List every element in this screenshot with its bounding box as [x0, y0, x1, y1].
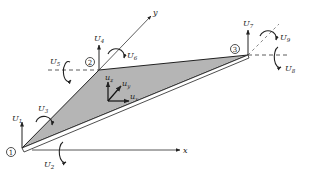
u5-label: U5: [50, 57, 61, 67]
u6-rotation-icon: [108, 49, 124, 58]
triangular-element-diagram: x y 1 U1 U3 U2 2 U4 U5 U6: [0, 0, 309, 176]
u7-label: U7: [243, 19, 254, 29]
u9-rotation-icon: [260, 31, 276, 40]
u2-label: U2: [44, 160, 55, 170]
node-3: 3 U7 U9 U8: [231, 19, 296, 74]
u5-rotation-icon: [63, 61, 71, 81]
global-x-axis: x: [32, 146, 188, 155]
node-1-label: 1: [9, 149, 13, 157]
global-y-axis: y: [99, 8, 158, 70]
plate-element: [22, 55, 249, 152]
y-axis-label: y: [152, 8, 158, 17]
u8-label: U8: [285, 64, 296, 74]
u8-rotation-icon: [274, 47, 281, 67]
u4-label: U4: [94, 34, 105, 44]
u9-label: U9: [280, 33, 291, 43]
u2-rotation-icon: [59, 142, 66, 162]
node-3-label: 3: [233, 46, 237, 54]
u6-label: U6: [127, 51, 138, 61]
u3-label: U3: [38, 104, 49, 114]
node-2-label: 2: [88, 59, 92, 67]
u1-label: U1: [12, 114, 22, 124]
x-axis-label: x: [183, 146, 188, 155]
